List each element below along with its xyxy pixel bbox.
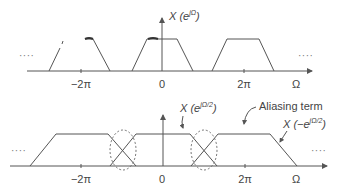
center-label-arrow — [182, 116, 183, 128]
center-spectrum-label: X (ejΩ/2) — [179, 101, 217, 114]
top-ellipsis-right: ···· — [298, 50, 313, 61]
aliasing-spectrum-label-arrow — [280, 131, 287, 142]
bottom-tick-label-minus-2pi: −2π — [71, 173, 92, 185]
top-tick-label-0: 0 — [159, 78, 165, 90]
top-omega-label: Ω — [292, 78, 300, 90]
top-replica-left-fall — [85, 39, 110, 71]
top-spectrum-label: X (ejΩ) — [168, 9, 200, 22]
top-replica-left-rise-fragment — [62, 41, 63, 44]
bottom-replica-left — [30, 134, 136, 166]
aliasing-label-arrow — [244, 107, 256, 124]
top-replica-right — [212, 39, 274, 71]
bottom-spectrum-plot: ···· ···· −2π 0 2π Ω X (ejΩ/2) Aliasing … — [10, 100, 327, 185]
top-spectrum-plot: ···· ···· −2π 0 2π Ω X (ejΩ) — [19, 9, 313, 90]
bottom-tick-label-2pi: 2π — [238, 173, 252, 185]
bottom-omega-label: Ω — [292, 173, 300, 185]
aliasing-spectrum-label: X (−ejΩ/2) — [282, 117, 326, 130]
top-tick-label-minus-2pi: −2π — [71, 78, 92, 90]
aliasing-term-label: Aliasing term — [259, 100, 323, 112]
bottom-ellipsis-left: ···· — [11, 145, 26, 156]
bottom-aliasing-replica — [191, 134, 297, 166]
bottom-tick-label-0: 0 — [159, 173, 165, 185]
top-replica-center-blob — [148, 38, 158, 39]
top-tick-label-2pi: 2π — [237, 78, 251, 90]
top-replica-left-blob — [85, 38, 93, 39]
top-ellipsis-left: ···· — [19, 50, 34, 61]
top-replica-left-rise — [49, 48, 60, 71]
bottom-ellipsis-right: ···· — [311, 145, 326, 156]
aliasing-diagram: ···· ···· −2π 0 2π Ω X (ejΩ) ···· ···· −… — [0, 0, 337, 193]
